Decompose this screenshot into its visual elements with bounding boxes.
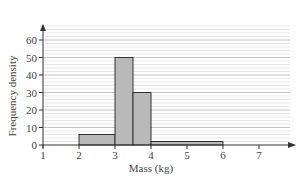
- y-axis-ticks: 0102030405060: [26, 34, 43, 151]
- y-tick-label: 60: [26, 34, 38, 46]
- x-tick-label: 4: [148, 149, 154, 161]
- y-tick-label: 20: [26, 104, 38, 116]
- histogram-chart: 0102030405060 1234567 Mass (kg) Frequenc…: [0, 0, 306, 181]
- histogram-bar: [115, 58, 133, 146]
- y-tick-label: 30: [26, 87, 38, 99]
- x-axis-arrow-icon: [288, 142, 296, 148]
- grid-lines: [43, 26, 290, 142]
- y-tick-label: 40: [26, 69, 38, 81]
- histogram-bars: [79, 58, 223, 146]
- y-axis-arrow-icon: [40, 24, 46, 31]
- x-axis-ticks: 1234567: [40, 145, 262, 161]
- x-tick-label: 3: [112, 149, 118, 161]
- axes: [40, 24, 296, 148]
- y-tick-label: 10: [26, 122, 38, 134]
- y-tick-label: 50: [26, 52, 38, 64]
- y-axis-title: Frequency density: [6, 55, 18, 136]
- y-tick-label: 0: [32, 139, 38, 151]
- x-tick-label: 5: [184, 149, 190, 161]
- x-axis-title: Mass (kg): [129, 162, 174, 175]
- histogram-bar: [151, 142, 223, 146]
- x-tick-label: 7: [256, 149, 262, 161]
- x-tick-label: 6: [220, 149, 226, 161]
- x-tick-label: 1: [40, 149, 46, 161]
- histogram-bar: [79, 135, 115, 146]
- x-tick-label: 2: [76, 149, 82, 161]
- histogram-bar: [133, 93, 151, 146]
